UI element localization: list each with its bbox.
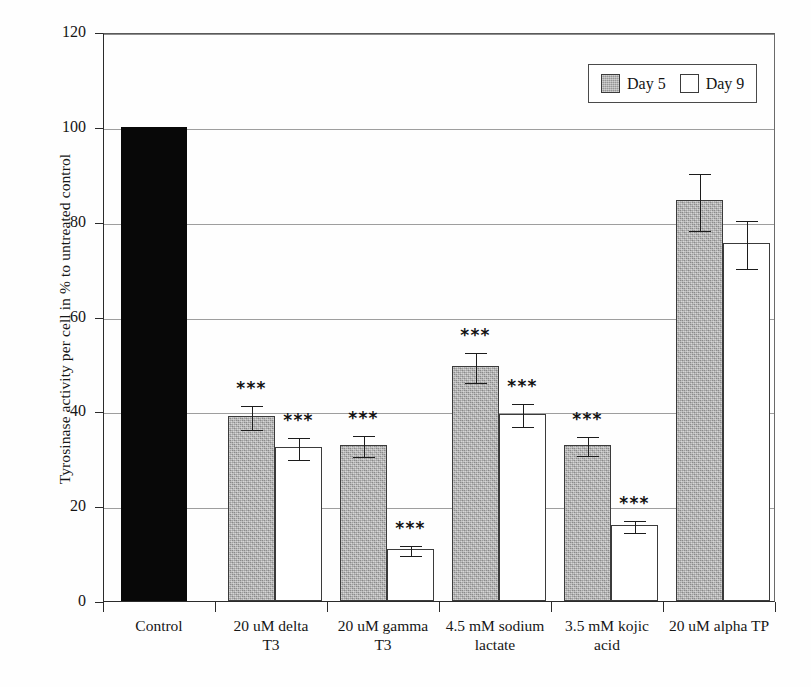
legend-swatch-day5	[601, 74, 620, 93]
error-bar-cap-upper	[241, 406, 263, 407]
bar-day9-4	[611, 525, 658, 601]
bar-day5-4	[564, 445, 611, 601]
error-bar-cap-lower	[400, 556, 422, 557]
significance-day9-3: ***	[507, 378, 537, 395]
bar-day9-5	[723, 243, 770, 601]
error-bar-line	[252, 406, 253, 431]
error-bar-line	[476, 353, 477, 383]
y-tick-label-60: 60	[22, 308, 86, 326]
x-label-line1: 20 uM delta	[234, 617, 309, 634]
x-label-line1: 20 uM gamma	[338, 617, 428, 634]
error-bar-cap-lower	[624, 533, 646, 534]
error-bar-cap-upper	[736, 221, 758, 222]
gridline-20	[104, 508, 774, 509]
x-tick-1	[215, 602, 216, 612]
x-tick-6	[775, 602, 776, 612]
x-label-line1: Control	[135, 617, 182, 634]
error-bar-cap-lower	[736, 269, 758, 270]
tyrosinase-activity-bar-chart: Tyrosinase activity per cell in % to unt…	[0, 0, 811, 687]
bar-day5-3	[452, 366, 499, 601]
y-tick-label-40: 40	[22, 402, 86, 420]
legend-entry-day9: Day 9	[680, 74, 745, 93]
gridline-80	[104, 224, 774, 225]
significance-day5-4: ***	[572, 411, 602, 428]
gridline-100	[104, 129, 774, 130]
error-bar-line	[299, 438, 300, 461]
y-tick-label-100: 100	[22, 118, 86, 136]
error-bar-cap-upper	[512, 404, 534, 405]
significance-day9-2: ***	[395, 520, 425, 537]
significance-day9-1: ***	[283, 412, 313, 429]
error-bar-cap-upper	[689, 174, 711, 175]
error-bar-cap-lower	[512, 427, 534, 428]
significance-day5-3: ***	[460, 327, 490, 344]
y-tick-label-120: 120	[22, 23, 86, 41]
x-tick-0	[103, 602, 104, 612]
significance-day5-2: ***	[348, 410, 378, 427]
bar-day5-2	[340, 445, 387, 601]
error-bar-cap-lower	[353, 457, 375, 458]
error-bar-line	[588, 437, 589, 456]
error-bar-cap-upper	[400, 546, 422, 547]
error-bar-cap-upper	[577, 437, 599, 438]
error-bar-cap-lower	[689, 231, 711, 232]
plot-area: ************************	[103, 33, 775, 602]
bar-day9-1	[275, 447, 322, 601]
significance-day9-4: ***	[619, 495, 649, 512]
x-tick-4	[551, 602, 552, 612]
error-bar-cap-lower	[288, 460, 310, 461]
x-label-line1: 4.5 mM sodium	[446, 617, 545, 634]
y-tick-label-20: 20	[22, 497, 86, 515]
gridline-40	[104, 413, 774, 414]
bar-day5-5	[676, 200, 723, 601]
error-bar-cap-upper	[465, 353, 487, 354]
legend-label-day5: Day 5	[627, 75, 666, 93]
error-bar-cap-upper	[624, 521, 646, 522]
error-bar-line	[523, 404, 524, 427]
error-bar-cap-lower	[465, 383, 487, 384]
gridline-120	[104, 34, 774, 35]
error-bar-cap-lower	[577, 456, 599, 457]
x-label-line1: 20 uM alpha TP	[669, 617, 769, 634]
significance-day5-1: ***	[236, 380, 266, 397]
y-tick-label-80: 80	[22, 213, 86, 231]
bar-day9-2	[387, 549, 434, 601]
x-tick-5	[663, 602, 664, 612]
x-label-line1: 3.5 mM kojic	[565, 617, 649, 634]
error-bar-cap-lower	[241, 430, 263, 431]
y-tick-label-0: 0	[22, 592, 86, 610]
bar-day9-3	[499, 414, 546, 601]
error-bar-line	[411, 546, 412, 555]
x-label-5: 20 uM alpha TP	[650, 616, 788, 635]
legend-label-day9: Day 9	[706, 75, 745, 93]
bar-day5-1	[228, 416, 275, 601]
x-tick-3	[439, 602, 440, 612]
bar-control	[121, 127, 187, 601]
error-bar-line	[747, 221, 748, 268]
error-bar-line	[635, 521, 636, 532]
error-bar-cap-upper	[353, 436, 375, 437]
legend-entry-day5: Day 5	[601, 74, 666, 93]
error-bar-line	[700, 174, 701, 231]
x-tick-2	[327, 602, 328, 612]
x-label-line2: acid	[538, 635, 676, 654]
error-bar-line	[364, 436, 365, 457]
error-bar-cap-upper	[288, 438, 310, 439]
legend-swatch-day9	[680, 74, 699, 93]
gridline-60	[104, 319, 774, 320]
legend: Day 5 Day 9	[588, 64, 757, 103]
